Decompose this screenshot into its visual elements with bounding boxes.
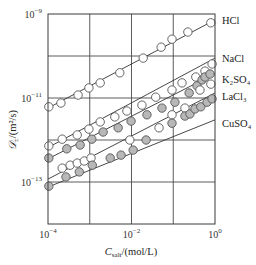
- data-point: [45, 182, 53, 190]
- data-point: [123, 107, 131, 115]
- data-point: [139, 54, 147, 62]
- data-point: [158, 104, 166, 112]
- x-tick-label: 10−2: [123, 227, 141, 240]
- y-tick-label: 10−9: [25, 7, 43, 20]
- data-point: [96, 79, 104, 87]
- data-point: [58, 164, 66, 172]
- data-point: [152, 93, 160, 101]
- series-label: K₂SO₄: [222, 74, 251, 85]
- data-point: [185, 89, 193, 97]
- data-point: [196, 86, 204, 94]
- data-point: [75, 168, 83, 176]
- data-point: [88, 161, 96, 169]
- data-point: [45, 142, 53, 150]
- data-point: [111, 113, 119, 121]
- data-point: [45, 103, 53, 111]
- data-point: [73, 131, 81, 139]
- data-point: [207, 19, 215, 27]
- data-point: [74, 91, 82, 99]
- data-point: [206, 70, 214, 78]
- data-point: [168, 86, 176, 94]
- data-point: [207, 80, 215, 88]
- data-point: [117, 151, 125, 159]
- data-point: [142, 136, 150, 144]
- y-tick-label: 10−11: [21, 91, 42, 104]
- data-point: [143, 111, 151, 119]
- series-label: CuSO₄: [222, 118, 252, 129]
- series-label: NaCl: [222, 53, 244, 64]
- data-point: [168, 35, 176, 43]
- data-point: [99, 128, 107, 136]
- data-point: [184, 28, 192, 36]
- data-point: [85, 125, 93, 133]
- data-point: [45, 154, 53, 162]
- data-points: [45, 19, 217, 191]
- data-point: [88, 135, 96, 143]
- data-point: [168, 111, 176, 119]
- data-point: [127, 117, 135, 125]
- data-point: [63, 145, 71, 153]
- data-point: [138, 101, 146, 109]
- data-point: [96, 118, 104, 126]
- diffusion-coefficient-chart: 10−410−2100 10−910−1110−13 HClNaClK₂SO₄L…: [0, 0, 256, 265]
- data-point: [178, 79, 186, 87]
- y-axis-label: 𝒟±/(m²/s): [7, 109, 20, 150]
- data-point: [62, 173, 70, 181]
- data-point: [155, 124, 163, 132]
- series-label: LaCl₃: [222, 91, 247, 102]
- series-label: HCl: [222, 15, 240, 26]
- data-point: [171, 98, 179, 106]
- data-point: [116, 69, 124, 77]
- data-point: [58, 135, 66, 143]
- y-tick-label: 10−13: [21, 175, 42, 188]
- data-point: [126, 136, 134, 144]
- y-axis-ticks: 10−910−1110−13: [21, 7, 42, 188]
- data-point: [106, 154, 114, 162]
- data-point: [76, 141, 84, 149]
- data-point: [157, 43, 165, 51]
- data-point: [168, 119, 176, 127]
- x-tick-label: 100: [208, 227, 222, 240]
- data-point: [129, 146, 137, 154]
- series-labels: HClNaClK₂SO₄LaCl₃CuSO₄: [222, 15, 252, 129]
- data-point: [85, 84, 93, 92]
- data-point: [114, 124, 122, 132]
- x-tick-label: 10−4: [39, 227, 57, 240]
- x-axis-label: Csalt/(mol/L): [105, 246, 158, 259]
- x-axis-ticks: 10−410−2100: [39, 227, 222, 240]
- data-point: [57, 99, 65, 107]
